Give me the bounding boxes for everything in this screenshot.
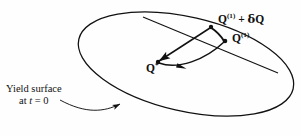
label-q1dq-delta-base: Q [255,13,264,25]
arrow-q1dq-to-qstar [159,28,210,61]
yield-surface-line2-prefix: at [19,95,29,106]
label-q1-plus-delta-q: Q(1) + δQ [218,13,264,25]
label-q1dq-operator: + [235,13,247,25]
yield-surface-line2: at t = 0 [6,95,62,107]
yield-surface-diagram: Q(1) + δQ Q(1) Q* Yield surface at t = 0 [0,0,301,136]
label-qstar-base: Q [146,62,155,74]
q1-plus-dq-node [209,25,213,29]
label-yield-surface: Yield surface at t = 0 [6,83,62,108]
label-q1-superscript: (1) [241,31,249,39]
label-q1-base: Q [232,32,241,44]
label-q-star: Q* [146,62,159,74]
yield-surface-line2-suffix: = 0 [32,95,48,106]
label-q1dq-base: Q [218,13,227,25]
label-q1: Q(1) [232,32,249,44]
yield-surface-line1: Yield surface [6,83,62,95]
arrow-q1-to-q1dq [212,28,225,41]
leader-arrow-yield-surface [60,100,120,110]
label-qstar-superscript: * [155,61,159,69]
q1-node [223,39,228,44]
yield-surface-ellipse [68,0,301,135]
